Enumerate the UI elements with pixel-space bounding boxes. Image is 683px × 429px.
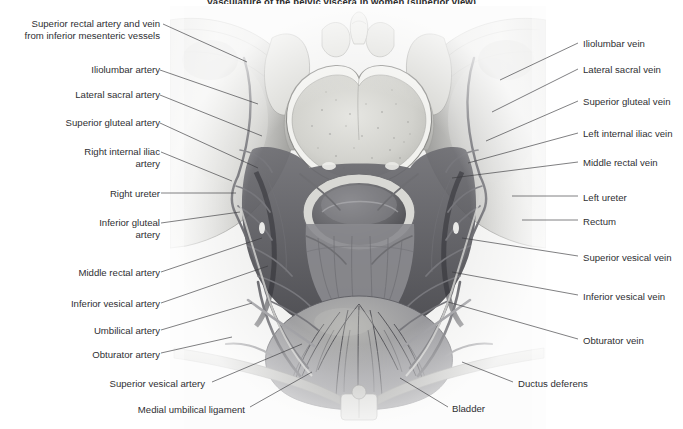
label-line: Right internal iliac: [10, 146, 160, 158]
illustration-body: [170, 6, 546, 429]
label-superior-vesical-vein: Superior vesical vein: [583, 252, 683, 264]
label-line: Superior vesical vein: [583, 252, 683, 264]
label-line: artery: [10, 158, 160, 170]
label-line: from inferior mesenteric vessels: [10, 30, 160, 42]
label-line: Ductus deferens: [518, 378, 628, 390]
label-middle-rectal-artery: Middle rectal artery: [10, 267, 160, 279]
label-line: artery: [10, 229, 160, 241]
label-line: Lateral sacral vein: [583, 64, 678, 76]
label-bladder: Bladder: [452, 403, 512, 415]
label-line: Bladder: [452, 403, 512, 415]
label-medial-umbilical-ligament: Medial umbilical ligament: [55, 404, 245, 416]
label-umbilical-artery: Umbilical artery: [10, 325, 160, 337]
label-line: Inferior vesical vein: [583, 291, 683, 303]
label-line: Left ureter: [583, 192, 678, 204]
label-line: Lateral sacral artery: [10, 89, 160, 101]
label-line: Rectum: [583, 216, 678, 228]
label-line: Inferior vesical artery: [10, 298, 160, 310]
label-superior-vesical-artery: Superior vesical artery: [55, 378, 205, 390]
label-line: Superior vesical artery: [55, 378, 205, 390]
label-line: Middle rectal artery: [10, 267, 160, 279]
label-line: Superior gluteal artery: [10, 117, 160, 129]
label-line: Obturator artery: [10, 349, 160, 361]
label-right-internal-iliac-artery: Right internal iliacartery: [10, 146, 160, 170]
label-line: Superior rectal artery and vein: [10, 18, 160, 30]
label-inferior-gluteal-artery: Inferior glutealartery: [10, 217, 160, 241]
label-line: Middle rectal vein: [583, 157, 678, 169]
figure-container: Vasculature of the pelvic viscera in wom…: [0, 0, 683, 429]
label-lateral-sacral-artery: Lateral sacral artery: [10, 89, 160, 101]
label-inferior-vesical-artery: Inferior vesical artery: [10, 298, 160, 310]
label-superior-gluteal-artery: Superior gluteal artery: [10, 117, 160, 129]
label-line: Right ureter: [10, 188, 160, 200]
label-iliolumbar-vein: Iliolumbar vein: [583, 38, 678, 50]
label-superior-rectal-artery-and-vein: Superior rectal artery and veinfrom infe…: [10, 18, 160, 42]
label-line: Iliolumbar vein: [583, 38, 678, 50]
label-left-ureter: Left ureter: [583, 192, 678, 204]
label-iliolumbar-artery: Iliolumbar artery: [10, 64, 160, 76]
label-rectum: Rectum: [583, 216, 678, 228]
label-line: Umbilical artery: [10, 325, 160, 337]
label-superior-gluteal-vein: Superior gluteal vein: [583, 96, 683, 108]
label-obturator-artery: Obturator artery: [10, 349, 160, 361]
label-ductus-deferens: Ductus deferens: [518, 378, 628, 390]
label-obturator-vein: Obturator vein: [583, 335, 678, 347]
label-line: Superior gluteal vein: [583, 96, 683, 108]
label-inferior-vesical-vein: Inferior vesical vein: [583, 291, 683, 303]
label-line: Iliolumbar artery: [10, 64, 160, 76]
label-middle-rectal-vein: Middle rectal vein: [583, 157, 678, 169]
label-line: Inferior gluteal: [10, 217, 160, 229]
label-line: Left internal iliac vein: [583, 128, 683, 140]
label-right-ureter: Right ureter: [10, 188, 160, 200]
label-lateral-sacral-vein: Lateral sacral vein: [583, 64, 678, 76]
label-line: Obturator vein: [583, 335, 678, 347]
label-line: Medial umbilical ligament: [55, 404, 245, 416]
label-left-internal-iliac-vein: Left internal iliac vein: [583, 128, 683, 140]
